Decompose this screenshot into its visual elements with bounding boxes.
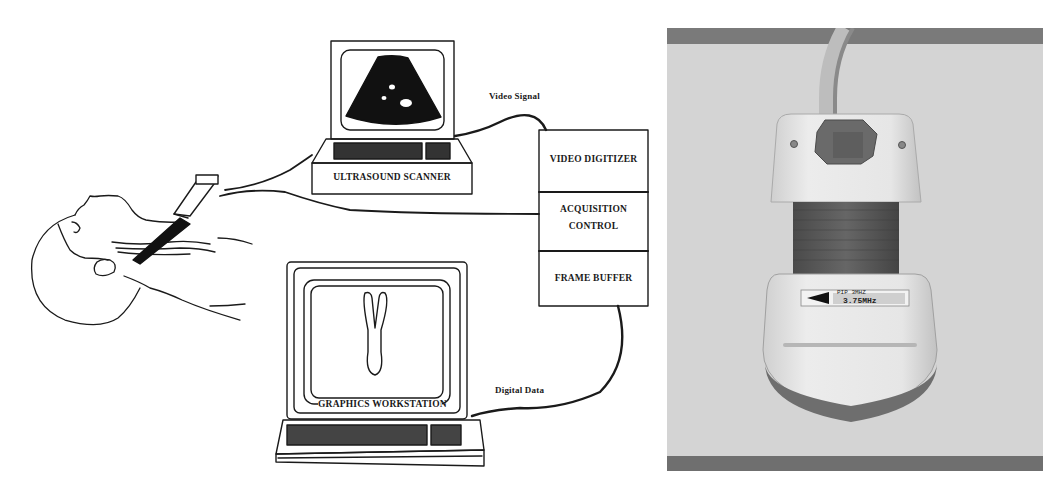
graphics-workstation-icon — [276, 262, 484, 466]
graphics-workstation-label: GRAPHICS WORKSTATION — [318, 399, 442, 409]
transducer-photo: PIP 3MHZ 3.75MHz — [667, 28, 1043, 471]
probe-label-model: PIP 3MHZ — [837, 289, 866, 296]
diagram-drawing — [0, 0, 660, 493]
video-digitizer-label: VIDEO DIGITIZER — [539, 154, 648, 164]
probe-photo-drawing — [667, 28, 1043, 471]
probe-label-frequency: 3.75MHz — [843, 296, 877, 305]
bottom-band — [667, 456, 1043, 471]
acquisition-control-label-line1: ACQUISITION — [539, 204, 648, 214]
digital-data-label: Digital Data — [495, 385, 544, 395]
video-signal-label: Video Signal — [489, 91, 540, 101]
ultrasound-scanner-label: ULTRASOUND SCANNER — [314, 172, 470, 182]
system-diagram: Video Signal ULTRASOUND SCANNER VIDEO DI… — [0, 0, 660, 493]
top-band — [667, 28, 1043, 44]
frame-buffer-label: FRAME BUFFER — [539, 273, 648, 283]
acquisition-control-label-line2: CONTROL — [539, 221, 648, 231]
figure: Video Signal ULTRASOUND SCANNER VIDEO DI… — [0, 0, 1063, 493]
